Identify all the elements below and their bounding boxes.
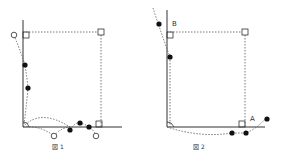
diagram-canvas: 図 1 B A 図 2 (0, 0, 282, 158)
square-marker (98, 29, 104, 35)
right-angle-marker (167, 32, 173, 38)
figure-1: 図 1 (11, 20, 122, 151)
filled-point (229, 130, 234, 135)
dotted-curve-bottom (70, 123, 96, 136)
filled-point (156, 21, 161, 26)
open-point (11, 32, 17, 38)
open-point (93, 133, 99, 139)
label-b: B (172, 20, 177, 28)
filled-point (77, 120, 82, 125)
filled-point (67, 127, 72, 132)
filled-point (25, 85, 30, 90)
filled-point (264, 116, 269, 121)
figure-1-caption: 図 1 (52, 143, 64, 151)
angle-marker (167, 122, 174, 127)
filled-point (86, 124, 91, 129)
figure-2-caption: 図 2 (193, 143, 205, 151)
dotted-curve-left (14, 35, 28, 125)
square-marker (242, 29, 248, 35)
open-point (51, 133, 57, 139)
label-a: A (250, 115, 255, 123)
filled-point (243, 130, 248, 135)
filled-point (22, 62, 27, 67)
figure-2: B A 図 2 (153, 8, 270, 151)
right-angle-marker-bottom (239, 121, 245, 127)
right-angle-marker (23, 32, 29, 38)
dotted-arc-2 (23, 127, 54, 136)
filled-point (167, 54, 172, 59)
